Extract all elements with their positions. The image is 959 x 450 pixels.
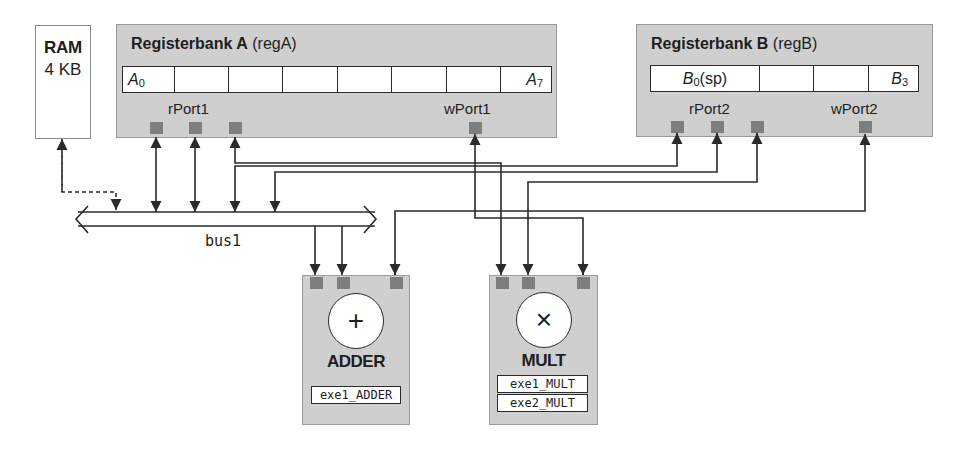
register-cell <box>229 67 283 92</box>
ram-block: RAM 4 KB <box>35 25 91 139</box>
register-cell-a7: A7 <box>501 67 551 92</box>
register-cell-note: (sp) <box>700 70 728 88</box>
wport1-label: wPort1 <box>444 100 491 117</box>
register-cell-index: 7 <box>537 77 543 89</box>
rport2-port-3 <box>751 121 764 133</box>
wport1-port <box>469 122 482 134</box>
mult-stage-exe2: exe2_MULT <box>497 394 588 412</box>
register-bank-a-name: Registerbank A <box>131 35 248 52</box>
mult-to-wport1-wire <box>475 134 583 275</box>
register-bank-a-title: Registerbank A (regA) <box>131 35 297 53</box>
register-cell-name: B <box>683 70 694 88</box>
adder-input-port-1 <box>310 277 323 289</box>
register-cell <box>814 66 869 91</box>
register-cell-name: B <box>891 70 902 88</box>
register-cell <box>283 67 338 92</box>
plus-icon: + <box>328 293 384 349</box>
wport2-label: wPort2 <box>831 100 878 117</box>
register-bank-b-cells: B0 (sp) B3 <box>650 65 919 92</box>
rport1-port-1 <box>150 122 163 134</box>
register-cell-index: 3 <box>902 76 908 88</box>
mult-input-port-2 <box>522 277 535 289</box>
mult-stage-exe1: exe1_MULT <box>497 375 588 393</box>
mult-output-port <box>577 277 590 289</box>
adder-to-wport2-wire <box>395 134 865 275</box>
multiply-icon: × <box>516 292 572 348</box>
rport2-port-1 <box>671 121 684 133</box>
mult-unit: × MULT exe1_MULT exe2_MULT <box>489 275 598 425</box>
register-cell-b0: B0 (sp) <box>651 66 760 91</box>
rport1-port-3 <box>229 122 242 134</box>
register-bank-b: Registerbank B (regB) B0 (sp) B3 rPort2 … <box>636 24 933 137</box>
mult-input-port-1 <box>496 277 509 289</box>
register-cell-a0: A0 <box>123 67 175 92</box>
adder-input-port-2 <box>337 277 350 289</box>
register-cell-index: 0 <box>139 77 145 89</box>
register-bank-b-alias: (regB) <box>773 35 817 52</box>
register-bank-b-title: Registerbank B (regB) <box>651 35 817 53</box>
register-bank-a-alias: (regA) <box>252 35 296 52</box>
adder-name: ADDER <box>303 352 409 372</box>
adder-stage-exe1: exe1_ADDER <box>311 386 401 404</box>
rport2-to-bus-wire-2 <box>275 133 717 212</box>
mult-name: MULT <box>490 351 597 371</box>
bus1 <box>76 206 376 233</box>
register-cell <box>760 66 814 91</box>
register-bank-a: Registerbank A (regA) A0 A7 rPort1 wPort… <box>116 24 557 138</box>
register-cell-name: A <box>128 71 139 89</box>
register-cell-b3: B3 <box>869 66 918 91</box>
register-bank-a-cells: A0 A7 <box>122 66 552 93</box>
rport1-to-mult-wire <box>235 137 501 275</box>
rport2-to-bus-wire-1 <box>235 133 677 212</box>
adder-unit: + ADDER exe1_ADDER <box>302 275 410 425</box>
adder-output-port <box>390 277 403 289</box>
rport2-port-2 <box>711 121 724 133</box>
rport1-label: rPort1 <box>168 100 209 117</box>
register-cell <box>447 67 501 92</box>
ram-title: RAM <box>36 38 90 58</box>
wport2-port <box>859 121 872 133</box>
register-cell <box>392 67 447 92</box>
ram-bus-link <box>62 149 116 210</box>
rport2-label: rPort2 <box>689 100 730 117</box>
bus-label: bus1 <box>205 232 241 250</box>
ram-size: 4 KB <box>36 60 90 80</box>
rport1-port-2 <box>189 122 202 134</box>
rport2-to-mult-wire <box>528 133 757 275</box>
register-cell-index: 0 <box>693 76 699 88</box>
register-cell <box>175 67 229 92</box>
register-cell <box>338 67 392 92</box>
register-bank-b-name: Registerbank B <box>651 35 768 52</box>
register-cell-name: A <box>526 71 537 89</box>
